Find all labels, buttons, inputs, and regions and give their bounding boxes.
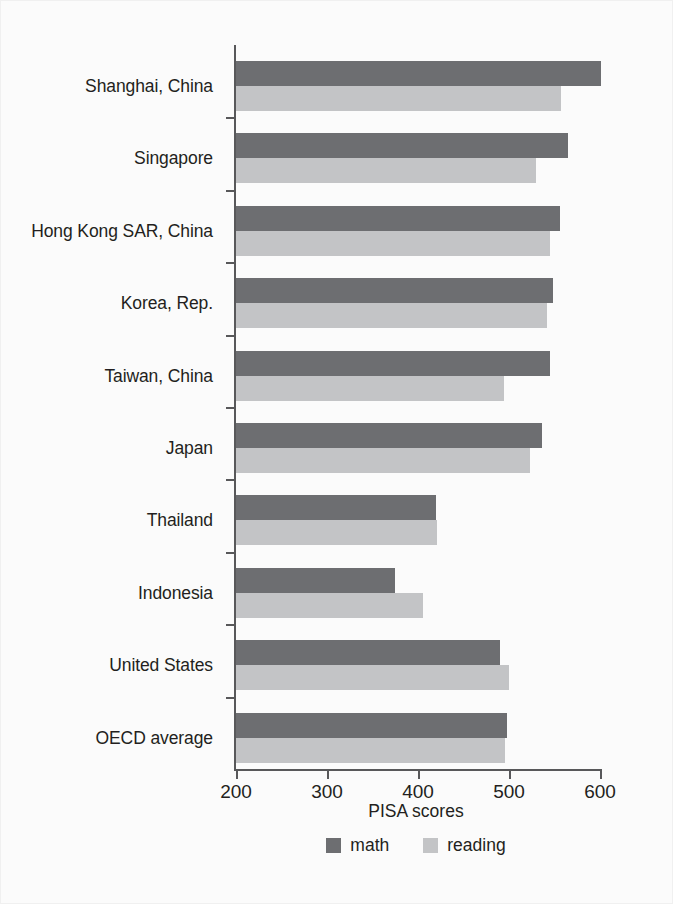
category-tick <box>226 697 236 699</box>
category-tick <box>226 117 236 119</box>
category-tick <box>226 624 236 626</box>
bar-reading <box>236 158 536 183</box>
x-axis-tick-label: 200 <box>220 781 252 803</box>
bar-reading <box>236 231 550 256</box>
category-label: Thailand <box>147 510 213 531</box>
chart-legend: math reading <box>234 835 598 856</box>
category-label: Japan <box>166 438 213 459</box>
x-axis-tick-label: 300 <box>311 781 343 803</box>
bar-math <box>236 568 395 593</box>
legend-swatch-math-icon <box>326 838 341 853</box>
bar-group <box>236 640 600 690</box>
bar-group <box>236 423 600 473</box>
bar-reading <box>236 376 504 401</box>
category-axis-labels: Shanghai, ChinaSingaporeHong Kong SAR, C… <box>1 45 223 769</box>
bar-group <box>236 61 600 111</box>
bar-math <box>236 713 507 738</box>
category-label: Shanghai, China <box>85 76 213 97</box>
pisa-scores-bar-chart: Shanghai, ChinaSingaporeHong Kong SAR, C… <box>0 0 673 904</box>
x-axis-tick <box>509 769 511 779</box>
bar-group <box>236 495 600 545</box>
category-label: OECD average <box>96 727 213 748</box>
bar-reading <box>236 520 437 545</box>
legend-item-reading: reading <box>423 835 505 856</box>
x-axis-title: PISA scores <box>234 801 598 822</box>
x-axis-tick <box>236 769 238 779</box>
category-label: Hong Kong SAR, China <box>31 220 213 241</box>
bar-math <box>236 423 542 448</box>
bar-reading <box>236 738 505 763</box>
x-axis-tick-label: 400 <box>402 781 434 803</box>
legend-swatch-reading-icon <box>423 838 438 853</box>
bar-group <box>236 133 600 183</box>
bar-reading <box>236 593 423 618</box>
category-label: United States <box>109 655 213 676</box>
category-tick <box>226 335 236 337</box>
bar-group <box>236 713 600 763</box>
bar-reading <box>236 303 547 328</box>
category-tick <box>226 552 236 554</box>
bar-group <box>236 568 600 618</box>
category-tick <box>226 407 236 409</box>
bar-reading <box>236 665 509 690</box>
x-axis-tick <box>327 769 329 779</box>
x-axis-tick <box>418 769 420 779</box>
bar-math <box>236 351 550 376</box>
legend-item-math: math <box>326 835 389 856</box>
x-axis-tick-label: 500 <box>493 781 525 803</box>
x-axis-tick-label: 600 <box>584 781 616 803</box>
category-label: Indonesia <box>138 582 213 603</box>
bar-math <box>236 133 568 158</box>
x-axis-tick <box>600 769 602 779</box>
bar-reading <box>236 86 561 111</box>
plot-area: 200300400500600 <box>234 45 600 771</box>
category-label: Taiwan, China <box>104 365 213 386</box>
bar-reading <box>236 448 530 473</box>
legend-label-math: math <box>350 835 389 856</box>
category-label: Singapore <box>134 148 213 169</box>
bar-group <box>236 278 600 328</box>
bar-group <box>236 351 600 401</box>
bar-group <box>236 206 600 256</box>
bar-math <box>236 640 500 665</box>
category-label: Korea, Rep. <box>121 293 213 314</box>
bar-math <box>236 206 560 231</box>
category-tick <box>226 262 236 264</box>
legend-label-reading: reading <box>447 835 505 856</box>
category-tick <box>226 479 236 481</box>
bar-math <box>236 61 601 86</box>
category-tick <box>226 190 236 192</box>
bar-math <box>236 495 436 520</box>
bar-math <box>236 278 553 303</box>
